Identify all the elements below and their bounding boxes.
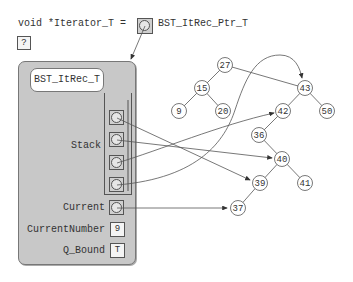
tree-node-20: 20	[216, 104, 231, 119]
diagram-canvas: 27 15 9 20 43 42 50 36 40 39 41 37	[0, 0, 353, 282]
tree-node-9: 9	[172, 104, 187, 119]
svg-text:42: 42	[278, 107, 289, 117]
svg-text:9: 9	[176, 107, 181, 117]
svg-text:41: 41	[300, 179, 311, 189]
tree-node-41: 41	[298, 176, 313, 191]
svg-text:20: 20	[218, 107, 229, 117]
stack0-arrow	[117, 118, 250, 180]
ptr-to-record-arrow	[131, 26, 145, 59]
svg-text:50: 50	[322, 107, 333, 117]
tree-node-15: 15	[195, 81, 210, 96]
svg-text:37: 37	[233, 204, 244, 214]
tree-node-39: 39	[253, 176, 268, 191]
tree-node-42: 42	[276, 104, 291, 119]
tree-node-27: 27	[218, 58, 233, 73]
svg-text:43: 43	[300, 84, 311, 94]
svg-text:15: 15	[197, 84, 208, 94]
svg-text:36: 36	[254, 131, 265, 141]
tree-node-43: 43	[298, 81, 313, 96]
svg-text:39: 39	[255, 179, 266, 189]
svg-text:27: 27	[220, 61, 231, 71]
tree-node-37: 37	[231, 201, 246, 216]
tree-node-36: 36	[252, 128, 267, 143]
tree-node-40: 40	[275, 152, 290, 167]
tree-node-50: 50	[320, 104, 335, 119]
svg-text:40: 40	[277, 155, 288, 165]
